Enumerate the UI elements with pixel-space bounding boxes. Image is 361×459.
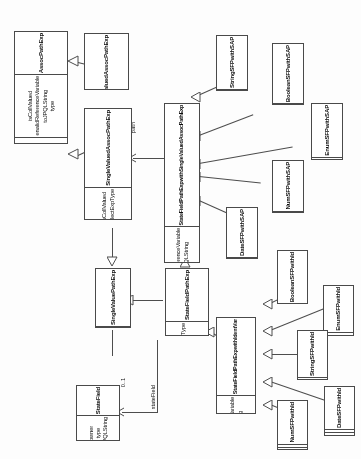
class-attribute: type: [95, 428, 101, 438]
class-attribute: amdIdReferenceVariable: [229, 397, 235, 414]
class-name-text: StateFieldPathExpwithSingleValuedAssocPa…: [179, 105, 185, 225]
gen-triangle-stringsfpsap: [191, 92, 202, 103]
class-name-cell: StateFieldPathExpwithIdentVar: [217, 318, 255, 396]
class-attribute: isCollValued: [27, 91, 33, 121]
class-name-cell: NumSFPwithSAP: [273, 161, 303, 212]
class-name-cell: SingleValuedAssocPathExp: [85, 109, 131, 188]
gen-triangle-numsfpid: [263, 400, 274, 411]
class-name-text: DateSFPwithId: [336, 388, 342, 428]
class-operations-cell: [325, 433, 354, 436]
class-name-cell: AssocPathExp: [15, 32, 67, 75]
class-name-text: BooleanSFPwithId: [289, 252, 295, 302]
class-attributes-cell: isCollValued selectExpType: [85, 188, 131, 220]
class-box-coll-valued-assoc-path-exp[interactable]: CollValuedAssocPathExp isCollValued: [84, 33, 129, 90]
association-edge-sfpe-down: [112, 330, 113, 356]
class-attribute: owner: [88, 426, 94, 441]
class-box-sfp-with-single-valued-assoc-path-exp[interactable]: StateFieldPathExpwithSingleValuedAssocPa…: [164, 103, 200, 263]
generalization-edge-numsfpsap: [199, 176, 261, 183]
class-name-text: SingleValuePathExp: [110, 270, 116, 325]
class-name-cell: EnumSFPwithId: [324, 286, 353, 333]
class-name-cell: BooleanSFPwithSAP: [273, 44, 303, 104]
class-attributes-cell: toJPQLString: [96, 327, 130, 328]
class-box-num-sfp-with-id[interactable]: NumSFPwithId: [277, 400, 308, 450]
class-operations-cell: [15, 138, 67, 144]
gen-triangle-singlevalued: [68, 148, 80, 160]
multiplicity-statefield: 0..1: [120, 378, 126, 387]
class-attribute: toJPQLString: [183, 242, 189, 263]
class-operations-cell: [278, 448, 307, 450]
class-attributes-cell: [324, 333, 353, 336]
class-box-boolean-sfp-with-sap[interactable]: BooleanSFPwithSAP: [272, 43, 304, 105]
class-name-cell: BooleanSFPwithId: [278, 251, 307, 304]
class-box-boolean-sfp-with-id[interactable]: BooleanSFPwithId: [277, 250, 308, 304]
generalization-edge-booleansfpsap: [199, 114, 254, 136]
role-label-statefield: stateField: [150, 385, 156, 409]
class-box-single-valued-assoc-path-exp[interactable]: SingleValuedAssocPathExp isCollValued se…: [84, 108, 132, 220]
uml-diagram-canvas: 0..1 path: [0, 0, 361, 459]
class-name-cell: SingleValuePathExp: [96, 269, 130, 327]
class-box-enum-sfp-with-id[interactable]: EnumSFPwithId: [323, 285, 354, 336]
generalization-edge-svpe-sfpe: [133, 300, 163, 301]
class-name-text: BooleanSFPwithSAP: [285, 45, 291, 102]
class-name-cell: DateSFPwithSAP: [227, 208, 257, 258]
class-box-num-sfp-with-sap[interactable]: NumSFPwithSAP: [272, 160, 304, 213]
class-box-string-sfp-with-sap[interactable]: StringSFPwithSAP: [216, 35, 248, 91]
class-name-text: StringSFPwithSAP: [229, 37, 235, 88]
class-box-single-value-path-exp[interactable]: SingleValuePathExp toJPQLString: [95, 268, 131, 328]
class-attributes-cell: selectExpType type: [166, 322, 208, 336]
gen-triangle-stringsfpid: [263, 349, 274, 360]
class-attributes-cell: [273, 212, 303, 213]
class-box-string-sfp-with-id[interactable]: StringSFPwithId: [297, 330, 328, 380]
class-box-assoc-path-exp[interactable]: AssocPathExp isCollValued enalidReferenc…: [14, 31, 68, 144]
class-attributes-cell: amdIdReferenceVariable toJPQLString: [217, 396, 255, 414]
class-attributes-cell: owner type toJPQLString: [77, 416, 119, 441]
class-attribute: selectExpType: [180, 323, 186, 336]
class-name-text: DateSFPwithSAP: [239, 209, 245, 256]
gen-triangle-svpe-top: [107, 256, 118, 267]
association-edge-path: [133, 158, 168, 159]
class-name-cell: StateField: [77, 386, 119, 416]
class-name-text: NumSFPwithId: [289, 402, 295, 443]
class-attribute: toJPQLString: [102, 417, 108, 441]
association-edge-statefield-h: [122, 412, 158, 413]
class-name-text: StateField: [95, 387, 101, 414]
class-attribute: toJPQLString: [42, 90, 48, 123]
class-attributes-cell: [298, 378, 327, 380]
gen-triangle-collvalued: [68, 55, 80, 67]
class-name-cell: StateFieldPathExp: [166, 269, 208, 322]
class-box-state-field-path-exp[interactable]: StateFieldPathExp selectExpType type: [165, 268, 209, 336]
class-attribute: enalidReferenceVariable: [34, 76, 40, 135]
class-attributes-cell: [312, 158, 342, 160]
generalization-edge-stringsfpid: [270, 354, 299, 355]
class-name-cell: CollValuedAssocPathExp: [85, 34, 128, 90]
class-name-text: AssocPathExp: [38, 33, 44, 73]
class-attribute: selectExpType: [109, 189, 115, 220]
class-box-enum-sfp-with-sap[interactable]: EnumSFPwithSAP: [311, 103, 343, 160]
class-attribute: type: [49, 101, 55, 111]
class-name-text: StringSFPwithId: [309, 332, 315, 376]
association-edge-statefield-v: [157, 340, 158, 412]
class-name-cell: EnumSFPwithSAP: [312, 104, 342, 158]
class-name-text: SingleValuedAssocPathExp: [105, 110, 111, 186]
class-name-text: NumSFPwithSAP: [285, 162, 291, 210]
class-attributes-cell: enalidReferenceVariable toJPQLString: [165, 227, 199, 263]
class-name-text: StateFieldPathExp: [184, 270, 190, 320]
class-box-date-sfp-with-id[interactable]: DateSFPwithId: [324, 386, 355, 436]
generalization-edge-datesfpsap: [199, 200, 227, 213]
class-name-text: EnumSFPwithId: [335, 287, 341, 331]
gen-triangle-enumsfpid: [263, 326, 274, 337]
class-box-sfp-with-ident-var[interactable]: StateFieldPathExpwithIdentVar amdIdRefer…: [216, 317, 256, 414]
gen-triangle-datesfpid: [263, 377, 274, 388]
class-attribute: enalidReferenceVariable: [175, 228, 181, 263]
gen-triangle-booleansfpid: [263, 299, 274, 310]
class-name-cell: StateFieldPathExpwithSingleValuedAssocPa…: [165, 104, 199, 227]
class-name-text: EnumSFPwithSAP: [324, 105, 330, 156]
class-attributes-cell: [227, 258, 257, 259]
class-attribute: toJPQLString: [237, 411, 243, 414]
class-attribute: isCollValued: [101, 192, 107, 220]
class-name-cell: StringSFPwithSAP: [217, 36, 247, 90]
class-box-date-sfp-with-sap[interactable]: DateSFPwithSAP: [226, 207, 258, 259]
class-attributes-cell: [217, 90, 247, 91]
class-box-state-field[interactable]: StateField owner type toJPQLString: [76, 385, 120, 441]
class-name-text: StateFieldPathExpwithIdentVar: [233, 319, 239, 394]
